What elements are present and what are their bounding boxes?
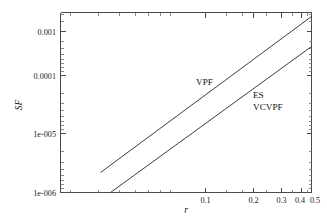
y-axis-title: SF xyxy=(14,100,24,111)
curve-annotations: VPF ES VCVPF xyxy=(196,77,283,112)
curve-label-es: ES xyxy=(253,90,264,100)
x-tick-label: 0.1 xyxy=(200,196,210,205)
y-axis-major-ticks xyxy=(61,32,312,193)
y-tick-label: 0.0001 xyxy=(33,72,56,81)
x-tick-label: 0.3 xyxy=(276,196,286,205)
figure-container: 0.001 0.0001 1e-005 1e-006 0.1 0.2 0.3 0… xyxy=(0,0,327,224)
x-axis-title: r xyxy=(184,205,188,215)
x-tick-label: 0.2 xyxy=(248,196,258,205)
y-tick-label: 1e-005 xyxy=(33,130,56,139)
axis-titles: SF r xyxy=(14,100,188,215)
log-log-line-chart: 0.001 0.0001 1e-005 1e-006 0.1 0.2 0.3 0… xyxy=(0,0,327,224)
y-axis-tick-labels: 0.001 0.0001 1e-005 1e-006 xyxy=(33,28,56,198)
curve-label-vpf: VPF xyxy=(196,77,213,87)
x-tick-label: 0.4 xyxy=(295,196,305,205)
x-axis-tick-labels: 0.1 0.2 0.3 0.4 0.5 xyxy=(200,196,320,205)
x-tick-label: 0.5 xyxy=(310,196,320,205)
curve-es-vcvpf xyxy=(111,47,312,193)
curve-vpf xyxy=(101,17,312,173)
y-tick-label: 0.001 xyxy=(38,28,56,37)
curve-label-vcvpf: VCVPF xyxy=(253,102,283,112)
y-tick-label: 1e-006 xyxy=(33,189,56,198)
